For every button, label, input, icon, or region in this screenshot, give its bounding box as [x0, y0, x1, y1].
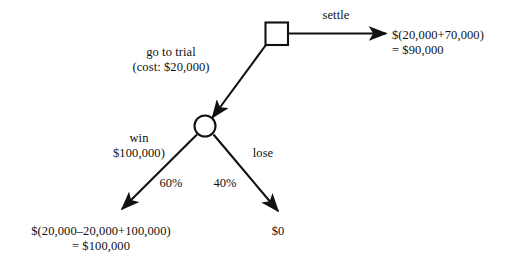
payoff-win: $(20,000–20,000+100,000)= $100,000: [12, 224, 190, 253]
payoff-settle-line-2: = $90,000: [392, 43, 444, 57]
payoff-settle: $(20,000+70,000)= $90,000: [392, 28, 531, 57]
go-to-trial-line-1: go to trial: [146, 45, 196, 59]
chance-node-circle[interactable]: [195, 116, 216, 137]
edge-label-go-to-trial: go to trial(cost: $20,000): [104, 45, 238, 74]
edge-label-win: win$100,000): [84, 131, 194, 160]
probability-win: 60%: [154, 176, 188, 191]
payoff-win-line-1: $(20,000–20,000+100,000): [31, 224, 171, 238]
payoff-win-line-2: = $100,000: [72, 239, 130, 253]
go-to-trial-line-2: (cost: $20,000): [132, 60, 209, 74]
payoff-settle-line-1: $(20,000+70,000): [392, 28, 484, 42]
decision-tree-diagram: settle go to trial(cost: $20,000) $(20,0…: [0, 0, 531, 269]
win-line-2: $100,000): [113, 146, 165, 160]
win-line-1: win: [129, 131, 148, 145]
edge-label-lose: lose: [243, 146, 283, 161]
decision-node-square[interactable]: [266, 23, 289, 46]
probability-lose: 40%: [208, 176, 242, 191]
edge-label-settle: settle: [304, 8, 368, 23]
payoff-lose: $0: [258, 224, 298, 239]
